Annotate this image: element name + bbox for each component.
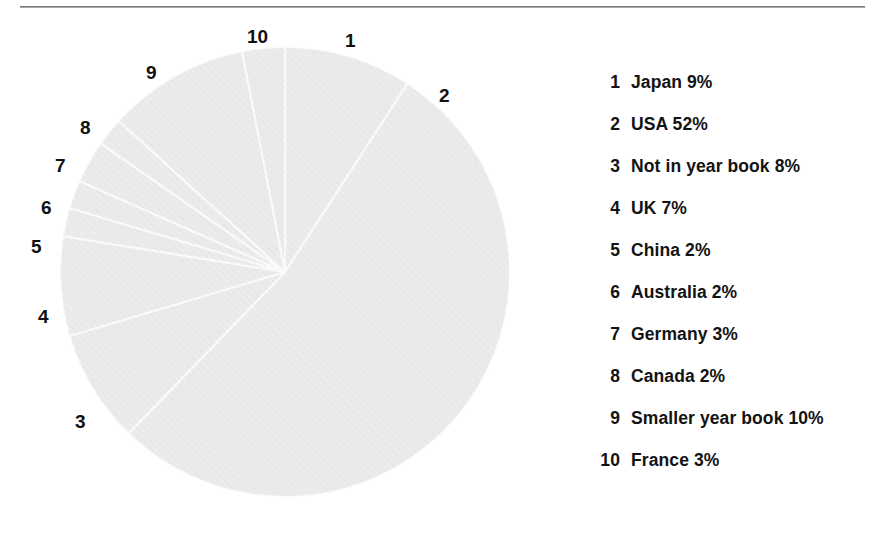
legend-item-label: Not in year book 8% [631,156,800,177]
legend-item-number: 3 [596,156,620,177]
legend-item-number: 9 [596,408,620,429]
legend-item-number: 7 [596,324,620,345]
legend-item-number: 4 [596,198,620,219]
slice-callout-10: 10 [247,27,268,46]
legend-item[interactable]: 10France 3% [596,450,876,492]
legend-item[interactable]: 2USA 52% [596,114,876,156]
legend-item-label: China 2% [631,240,711,261]
legend-item[interactable]: 3Not in year book 8% [596,156,876,198]
slice-callout-6: 6 [41,198,52,217]
legend-item[interactable]: 6Australia 2% [596,282,876,324]
figure-page: 12345678910 1Japan 9%2USA 52%3Not in yea… [0,0,883,538]
slice-callout-8: 8 [80,118,91,137]
legend-item-label: UK 7% [631,198,687,219]
legend-item-number: 2 [596,114,620,135]
slice-callout-2: 2 [439,86,450,105]
legend-item-label: Canada 2% [631,366,725,387]
legend-item-number: 1 [596,72,620,93]
legend-item-number: 5 [596,240,620,261]
legend-item[interactable]: 5China 2% [596,240,876,282]
legend-item-number: 8 [596,366,620,387]
legend-item[interactable]: 7Germany 3% [596,324,876,366]
slice-callout-5: 5 [31,237,42,256]
legend-item-label: France 3% [631,450,719,471]
slice-callout-9: 9 [146,63,157,82]
slice-callout-7: 7 [55,156,66,175]
slice-callout-3: 3 [75,412,86,431]
legend-item-number: 6 [596,282,620,303]
legend-item-label: Germany 3% [631,324,738,345]
pie-chart [0,0,575,538]
legend-item[interactable]: 1Japan 9% [596,72,876,114]
legend-item[interactable]: 9Smaller year book 10% [596,408,876,450]
pie-legend: 1Japan 9%2USA 52%3Not in year book 8%4UK… [596,72,876,492]
legend-item-label: Japan 9% [631,72,713,93]
pie-chart-svg [0,0,575,538]
legend-item-label: USA 52% [631,114,708,135]
legend-item[interactable]: 8Canada 2% [596,366,876,408]
slice-callout-1: 1 [345,31,356,50]
slice-callout-4: 4 [38,307,49,326]
legend-item-number: 10 [596,450,620,471]
legend-item-label: Australia 2% [631,282,737,303]
legend-item[interactable]: 4UK 7% [596,198,876,240]
legend-item-label: Smaller year book 10% [631,408,824,429]
